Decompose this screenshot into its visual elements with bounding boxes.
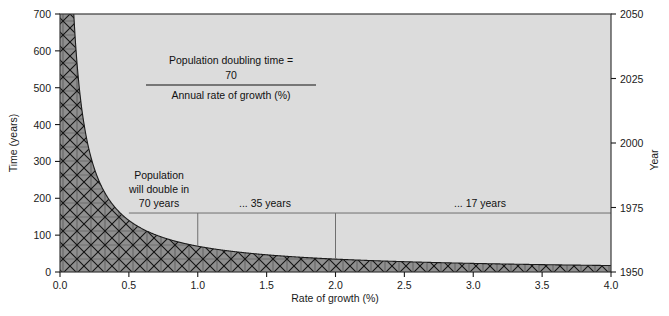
y-axis-left-tick-label: 600 (33, 45, 51, 57)
y-axis-right-tick-label: 2050 (620, 8, 644, 20)
y-axis-right-tick-label: 2000 (620, 137, 644, 149)
chart-svg: 0100200300400500600700 Time (years) 1950… (0, 0, 669, 316)
x-axis-tick-label: 0.5 (122, 279, 137, 291)
y-axis-left-tick-label: 700 (33, 8, 51, 20)
y-axis-left-tick-label: 200 (33, 192, 51, 204)
x-axis-tick-label: 1.0 (190, 279, 205, 291)
y-axis-right-tick-label: 1975 (620, 202, 644, 214)
population-doubling-time-chart: 0100200300400500600700 Time (years) 1950… (0, 0, 669, 316)
y-axis-right-tick-label: 2025 (620, 73, 644, 85)
annotation-doubling-35: ... 35 years (239, 197, 291, 209)
x-axis-tick-label: 3.0 (466, 279, 481, 291)
formula-numerator: 70 (225, 69, 237, 81)
y-axis-left-title: Time (years) (7, 114, 19, 173)
y-axis-right-title: Year (648, 149, 660, 171)
annotation-doubling-70-line-3: 70 years (139, 197, 179, 209)
x-axis-tick-label: 3.5 (535, 279, 550, 291)
y-axis-left-tick-label: 100 (33, 229, 51, 241)
x-axis-tick-label: 2.5 (397, 279, 412, 291)
x-axis-tick-label: 2.0 (328, 279, 343, 291)
x-axis-tick-label: 0.0 (53, 279, 68, 291)
x-axis-title: Rate of growth (%) (291, 292, 379, 304)
x-axis-tick-label: 1.5 (259, 279, 274, 291)
y-axis-left-tick-label: 300 (33, 155, 51, 167)
annotation-doubling-17: ... 17 years (454, 197, 506, 209)
y-axis-left-tick-label: 500 (33, 82, 51, 94)
y-axis-left-tick-label: 400 (33, 119, 51, 131)
annotation-doubling-70-line-1: Population (134, 169, 184, 181)
annotation-doubling-70-line-2: will double in (128, 183, 189, 195)
y-axis-right-tick-label: 1950 (620, 266, 644, 278)
y-axis-left-tick-label: 0 (45, 266, 51, 278)
formula-label: Population doubling time = (169, 54, 293, 66)
formula-denominator: Annual rate of growth (%) (171, 89, 290, 101)
x-axis-tick-label: 4.0 (604, 279, 619, 291)
